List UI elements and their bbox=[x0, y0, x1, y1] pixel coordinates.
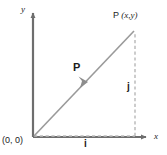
unit-vector-j-label: j bbox=[127, 82, 130, 92]
point-p-coordinates: (x,y) bbox=[121, 10, 137, 20]
x-axis-label: x bbox=[154, 132, 158, 141]
point-p-label: P (x,y) bbox=[113, 11, 138, 20]
vector-p-label: P bbox=[73, 62, 80, 73]
y-axis-label: y bbox=[21, 5, 25, 14]
position-vector-arrowhead bbox=[79, 77, 89, 89]
origin-label: (0, 0) bbox=[2, 136, 23, 145]
vector-diagram: y x P (x,y) (0, 0) P i j bbox=[0, 0, 167, 155]
point-p-name: P bbox=[113, 10, 119, 20]
diagram-canvas bbox=[0, 0, 167, 155]
unit-vector-i-label: i bbox=[84, 139, 87, 149]
